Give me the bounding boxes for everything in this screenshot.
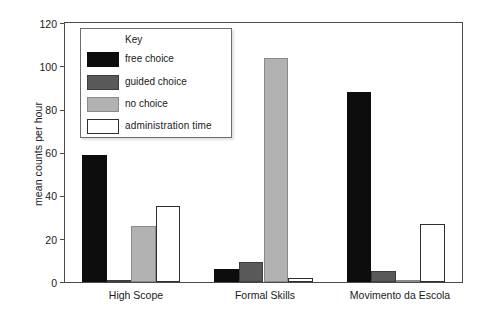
y-tick-20: 20 [45,230,65,248]
y-axis-title: mean counts per hour [32,54,44,254]
y-tick-80: 80 [45,100,65,118]
legend-swatch-administration-time-icon [87,119,119,134]
legend-key-box: Key free choice guided choice no choice … [80,28,232,138]
x-group-label-formal-skills: Formal Skills [205,289,325,301]
y-tick-60: 60 [45,144,65,162]
bar-guided-choice-high-scope [107,280,132,282]
legend-label: guided choice [125,76,187,87]
legend-label: administration time [125,120,212,131]
bar-guided-choice-formal-skills [239,262,264,283]
legend-swatch-guided-choice-icon [87,75,119,90]
bar-no-choice-high-scope [131,226,156,282]
bar-chart-figure: mean counts per hour 120 100 80 60 40 20… [0,0,485,322]
legend-label: free choice [125,53,174,64]
y-tick-40: 40 [45,187,65,205]
legend-item-no-choice: no choice [87,95,231,115]
bar-guided-choice-movimento-da-escola [371,271,396,282]
bar-administration-time-high-scope [156,206,181,282]
bar-free-choice-movimento-da-escola [347,92,372,282]
legend-title: Key [125,34,142,45]
bar-no-choice-formal-skills [264,58,289,282]
y-tick-mark [60,282,65,283]
bar-administration-time-formal-skills [288,278,313,282]
x-group-label-movimento: Movimento da Escola [330,289,470,301]
bar-free-choice-formal-skills [214,269,239,282]
x-group-label-high-scope: High Scope [76,289,196,301]
bar-administration-time-movimento-da-escola [420,224,445,282]
legend-swatch-no-choice-icon [87,97,119,112]
bar-free-choice-high-scope [82,155,107,282]
legend-swatch-free-choice-icon [87,52,119,67]
legend-item-administration-time: administration time [87,117,231,137]
y-tick-0: 0 [51,273,65,291]
y-tick-label: 0 [51,277,60,289]
legend-item-free-choice: free choice [87,50,231,70]
y-tick-label: 40 [45,190,60,202]
y-tick-label: 100 [39,61,60,73]
y-tick-120: 120 [39,14,65,32]
y-tick-label: 80 [45,104,60,116]
y-tick-label: 120 [39,18,60,30]
legend-item-guided-choice: guided choice [87,73,231,93]
y-tick-label: 20 [45,234,60,246]
y-tick-label: 60 [45,147,60,159]
legend-label: no choice [125,98,168,109]
bar-no-choice-movimento-da-escola [396,280,421,282]
y-tick-100: 100 [39,57,65,75]
